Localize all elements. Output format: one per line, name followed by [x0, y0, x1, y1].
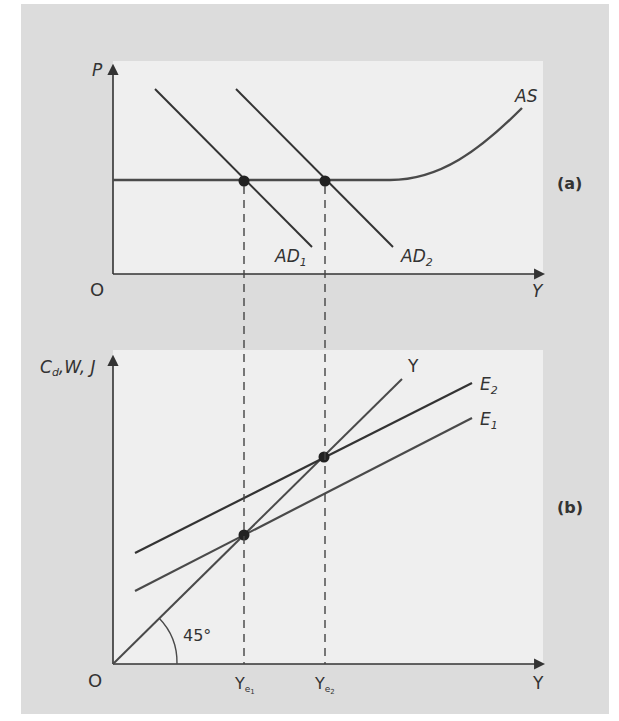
panel-b-y-label: Cd,W, J: [40, 357, 96, 379]
y-line-label: Y: [407, 356, 419, 376]
equilibrium-dot-a1: [239, 176, 250, 187]
panel-a-tag: (a): [557, 174, 582, 193]
panel-a-origin-label: O: [90, 279, 104, 300]
panel-a-x-label: Y: [532, 281, 544, 301]
panel-b-tag: (b): [557, 498, 583, 517]
equilibrium-dot-a2: [320, 176, 331, 187]
panel-b-origin-label: O: [88, 670, 102, 691]
as-label: AS: [514, 86, 538, 106]
panel-b-plot-area: [113, 350, 543, 664]
panel-a-plot-area: [113, 61, 543, 274]
angle-label: 45°: [183, 626, 211, 645]
panel-b: Cd,W, J O Y Y E2 E1 45° (b) Ye1 Ye2: [40, 350, 583, 696]
panel-a: P O Y AS AD1 AD2 (a): [90, 60, 582, 301]
panel-b-x-label: Y: [532, 673, 544, 693]
equilibrium-dot-b2: [319, 452, 330, 463]
ad-as-income-expenditure-diagram: P O Y AS AD1 AD2 (a) Cd,W, J O Y Y E2 E1…: [0, 0, 619, 721]
panel-a-y-label: P: [92, 60, 103, 80]
